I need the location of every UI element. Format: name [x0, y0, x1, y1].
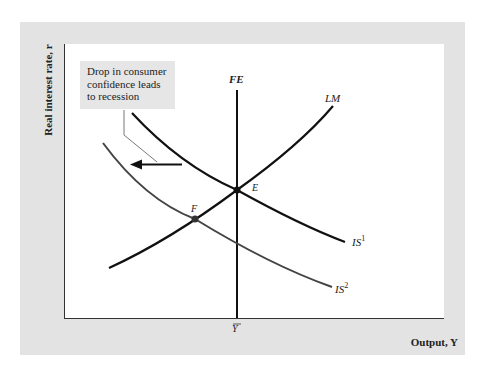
annotation-line-1: Drop in consumer	[87, 65, 175, 78]
annotation-leader-line	[124, 110, 157, 162]
is-lm-diagram	[0, 0, 488, 375]
fe-label: FE	[229, 73, 244, 85]
x-axis-label: Output, Y	[411, 336, 458, 348]
is2-label: IS2	[335, 281, 348, 295]
f-label: F	[191, 203, 197, 214]
point-f	[192, 216, 199, 223]
annotation-line-2: confidence leads	[87, 78, 175, 91]
point-e	[234, 187, 241, 194]
is1-label: IS1	[352, 234, 365, 248]
e-label: E	[252, 182, 258, 193]
is1-curve	[132, 113, 345, 242]
annotation-box: Drop in consumer confidence leads to rec…	[80, 61, 175, 109]
annotation-line-3: to recession	[87, 90, 175, 103]
shift-arrow-head	[130, 160, 142, 170]
y-axis-label: Real interest rate, r	[42, 44, 54, 135]
lm-label: LM	[325, 92, 340, 104]
ybar-label: Y	[232, 323, 238, 334]
